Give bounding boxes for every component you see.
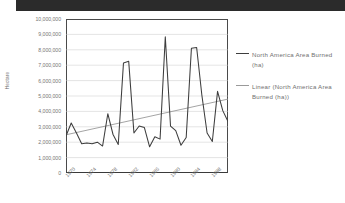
y-axis-tick-label: 5,000,000 xyxy=(38,93,61,99)
legend-item-series: North America Area Burned (ha) xyxy=(236,50,344,69)
y-axis-tick-label: 7,000,000 xyxy=(38,62,61,68)
plot-area xyxy=(66,19,228,173)
y-axis-tick-label: 4,000,000 xyxy=(38,108,61,114)
y-axis-tick-label: 2,000,000 xyxy=(38,139,61,145)
y-axis-tick-label: 1,000,000 xyxy=(38,155,61,161)
chart-container: Hectare 10,000,0009,000,0008,000,0007,00… xyxy=(0,0,345,203)
legend-label-series: North America Area Burned (ha) xyxy=(252,50,344,69)
chart-legend: North America Area Burned (ha) Linear (N… xyxy=(236,50,344,114)
trendline-swatch xyxy=(236,82,249,89)
x-axis-tick-labels: 19701974197819821986199019941998 xyxy=(66,174,241,203)
trendline-path xyxy=(66,99,228,135)
legend-item-trendline: Linear (North America Area Burned (ha)) xyxy=(236,82,344,101)
y-axis-tick-label: 9,000,000 xyxy=(38,31,61,37)
y-axis-tick-label: 3,000,000 xyxy=(38,124,61,130)
y-axis-title: Hectare xyxy=(5,56,10,106)
series-line-path xyxy=(66,37,228,147)
legend-label-trendline: Linear (North America Area Burned (ha)) xyxy=(252,82,344,101)
y-axis-tick-label: 8,000,000 xyxy=(38,47,61,53)
y-axis-tick-label: 6,000,000 xyxy=(38,78,61,84)
y-axis-tick-label: 10,000,000 xyxy=(36,16,61,22)
y-axis-tick-labels: 10,000,0009,000,0008,000,0007,000,0006,0… xyxy=(16,19,64,173)
series-line-swatch xyxy=(236,50,249,57)
y-axis-tick-label: 0 xyxy=(58,170,61,176)
